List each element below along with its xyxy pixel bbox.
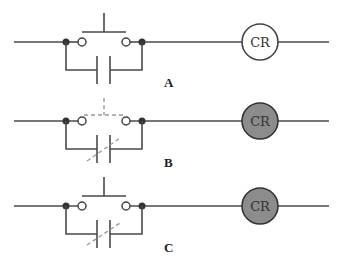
pushbutton-icon: [78, 177, 130, 210]
rung-b: CR B: [14, 98, 329, 170]
coil-label: CR: [250, 199, 271, 214]
rung-label-a: A: [164, 75, 174, 90]
rung-label-c: C: [164, 240, 173, 255]
seal-in-contact-closed-icon: [66, 206, 142, 248]
pushbutton-pressed-icon: [78, 98, 130, 125]
rung-a: CR A: [14, 13, 329, 90]
pushbutton-icon: [78, 13, 130, 46]
coil-label: CR: [250, 35, 271, 50]
coil-icon: CR: [242, 24, 278, 60]
coil-energized-icon: CR: [242, 188, 278, 224]
seal-in-contact-icon: [66, 42, 142, 84]
rung-label-b: B: [164, 155, 173, 170]
seal-in-contact-closed-icon: [66, 121, 142, 163]
rung-c: CR C: [14, 177, 329, 255]
coil-label: CR: [250, 114, 271, 129]
coil-energized-icon: CR: [242, 103, 278, 139]
ladder-diagram: CR A CR B: [0, 0, 340, 260]
